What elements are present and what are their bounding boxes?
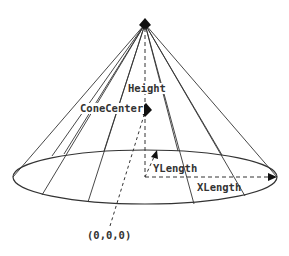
cone-diagram xyxy=(0,0,289,256)
origin-label: (0,0,0) xyxy=(86,230,132,241)
y-length-label: YLength xyxy=(152,163,198,174)
x-length-label: XLength xyxy=(196,182,242,193)
y-length-arrowhead-icon xyxy=(151,150,158,159)
height-label: Height xyxy=(127,83,167,94)
origin-to-center-line xyxy=(110,112,145,226)
cone-center-label: ConeCenter xyxy=(79,103,144,114)
